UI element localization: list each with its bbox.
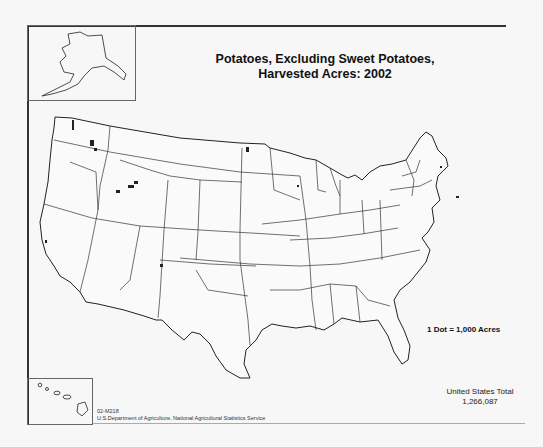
total-label: United States Total [430, 387, 530, 397]
source-text: U.S.Department of Agriculture, National … [97, 415, 265, 422]
total-value: 1,266,087 [430, 397, 530, 407]
us-total: United States Total 1,266,087 [430, 387, 530, 407]
map-title: Potatoes, Excluding Sweet Potatoes, Harv… [200, 52, 450, 82]
title-line-2: Harvested Acres: 2002 [200, 67, 450, 82]
map-id: 02-M218 [97, 408, 265, 415]
conus-outline [40, 117, 448, 378]
hawaii-shape [38, 383, 88, 416]
alaska-shape [42, 32, 126, 96]
source-credit: 02-M218 U.S.Department of Agriculture, N… [97, 408, 265, 422]
title-line-1: Potatoes, Excluding Sweet Potatoes, [200, 52, 450, 67]
dot-legend: 1 Dot = 1,000 Acres [427, 325, 500, 334]
